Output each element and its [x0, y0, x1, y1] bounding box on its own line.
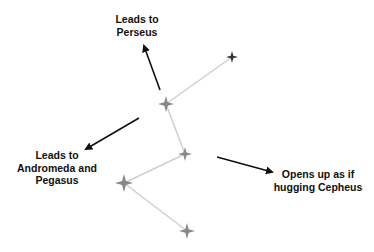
constellation-line: [166, 104, 185, 154]
arrow-to-perseus: [144, 46, 160, 90]
star-icon: [158, 96, 174, 112]
label-line: Andromeda and: [17, 162, 97, 175]
star-icon: [226, 51, 238, 63]
label-line: Pegasus: [17, 174, 97, 187]
constellation-line: [124, 154, 185, 183]
label-line: Leads to: [115, 13, 158, 26]
constellation-line: [166, 57, 232, 104]
label-cepheus: Opens up as if hugging Cepheus: [274, 168, 363, 193]
label-line: Leads to: [17, 149, 97, 162]
constellation-line: [124, 183, 187, 231]
arrow-to-andromeda: [86, 118, 139, 149]
star-icon: [178, 147, 192, 161]
constellation-diagram: [0, 0, 374, 252]
label-line: hugging Cepheus: [274, 181, 363, 194]
arrow-to-cepheus: [217, 157, 272, 172]
label-perseus: Leads to Perseus: [115, 13, 158, 38]
label-line: Opens up as if: [274, 168, 363, 181]
star-icon: [115, 174, 133, 192]
label-andromeda: Leads to Andromeda and Pegasus: [17, 149, 97, 187]
label-line: Perseus: [115, 26, 158, 39]
star-icon: [179, 223, 195, 239]
